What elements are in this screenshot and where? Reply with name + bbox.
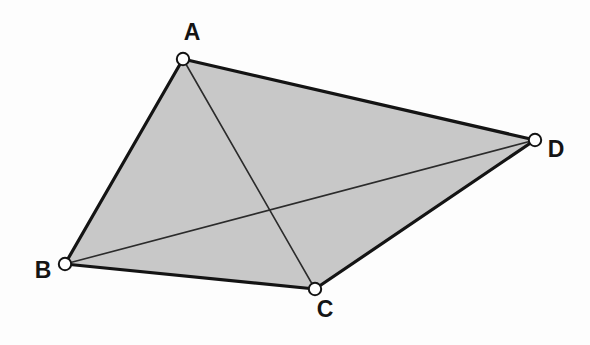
vertex-marker-a (177, 53, 189, 65)
vertex-marker-b (59, 258, 71, 270)
vertex-label-d: D (548, 136, 565, 162)
vertex-marker-c (309, 283, 321, 295)
vertex-label-c: C (317, 296, 334, 322)
vertex-marker-d (529, 134, 541, 146)
vertex-label-b: B (35, 257, 52, 283)
figure-canvas: A B C D (0, 0, 590, 345)
vertex-label-a: A (184, 19, 201, 45)
geometry-figure: A B C D (0, 0, 590, 345)
